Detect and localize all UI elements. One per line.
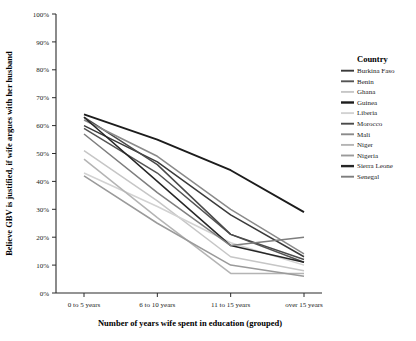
legend-item-liberia[interactable]: Liberia [341,109,378,117]
series-line-benin [84,128,304,262]
legend-label: Nigeria [357,152,379,160]
y-axis-tick-label: 100% [33,11,50,19]
series-line-ghana [84,151,304,271]
y-axis-tick-label: 80% [36,66,49,74]
legend-item-nigeria[interactable]: Nigeria [341,152,379,160]
line-chart: 0%10%20%30%40%50%60%70%80%90%100%0 to 5 … [0,0,416,341]
series-line-nigeria [84,176,304,276]
legend-label: Benin [357,78,374,86]
legend-item-morocco[interactable]: Morocco [341,120,383,128]
x-axis-title: Number of years wife spent in education … [98,318,282,328]
y-axis-tick-label: 0% [40,290,50,298]
chart-container: 0%10%20%30%40%50%60%70%80%90%100%0 to 5 … [0,0,416,341]
legend-label: Mali [357,131,370,139]
legend-label: Ghana [357,88,376,96]
y-axis-tick-label: 10% [36,262,49,270]
legend-label: Liberia [357,109,378,117]
legend-title: Country [357,54,388,64]
legend-label: Guinea [357,99,378,107]
legend-item-senegal[interactable]: Senegal [341,173,379,181]
y-axis-tick-label: 70% [36,94,49,102]
y-axis-title: Believe GBV is justified, if wife argues… [4,51,14,256]
legend-label: Sierra Leone [357,162,393,170]
x-axis-tick-label: 6 to 10 years [139,301,175,309]
y-axis-tick-label: 50% [36,150,49,158]
legend-label: Burkina Faso [357,67,395,75]
legend-item-sierra-leone[interactable]: Sierra Leone [341,162,393,170]
legend-label: Morocco [357,120,383,128]
y-axis-tick-label: 90% [36,39,49,47]
y-axis-tick-label: 30% [36,206,49,214]
y-axis-tick-label: 40% [36,178,49,186]
legend-item-niger[interactable]: Niger [341,141,374,149]
legend-label: Niger [357,141,374,149]
legend-item-burkina-faso[interactable]: Burkina Faso [341,67,395,75]
legend-item-benin[interactable]: Benin [341,78,374,86]
legend-label: Senegal [357,173,379,181]
series-line-mali [84,120,304,254]
y-axis-tick-label: 60% [36,122,49,130]
x-axis-tick-label: 0 to 5 years [68,301,101,309]
y-axis-tick-label: 20% [36,234,49,242]
legend-item-mali[interactable]: Mali [341,131,370,139]
legend-item-ghana[interactable]: Ghana [341,88,376,96]
series-line-niger [84,159,304,273]
x-axis-tick-label: 11 to 15 years [211,301,250,309]
legend-item-guinea[interactable]: Guinea [341,99,378,107]
x-axis-tick-label: over 15 years [285,301,323,309]
